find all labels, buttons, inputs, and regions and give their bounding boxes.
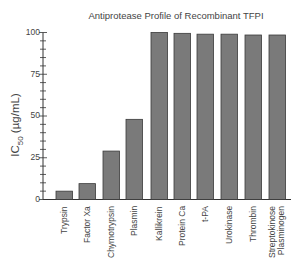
bar-factor-xa [79, 184, 96, 200]
bars [56, 33, 286, 200]
x-tick-label: Plasmin [130, 205, 139, 235]
x-tick-label: Trypsin [60, 206, 69, 234]
x-tick-label: Urokinase [225, 205, 234, 243]
x-tick-label: Protein Ca [178, 205, 187, 245]
x-tick-label: Thrombin [249, 206, 258, 242]
bar-kallikrein [151, 33, 168, 200]
x-tick-label: t-PA [201, 206, 210, 222]
bar-protein-ca [174, 33, 191, 199]
bar-plasmin [126, 119, 143, 199]
bar-t-pa [197, 34, 214, 199]
x-tick-label: StreptokinosePlasminogen [268, 206, 286, 258]
bar-chymotrypsin [103, 151, 120, 199]
bar-urokinase [221, 34, 238, 199]
x-tick-label: Kallikrein [155, 206, 164, 241]
bar-trypsin [56, 191, 73, 199]
bar-streptokinose-plasminogen [269, 35, 286, 199]
x-tick-label: Factor Xa [83, 206, 92, 243]
bar-thrombin [245, 35, 262, 199]
x-tick-label: Chymotrypsin [107, 206, 116, 258]
